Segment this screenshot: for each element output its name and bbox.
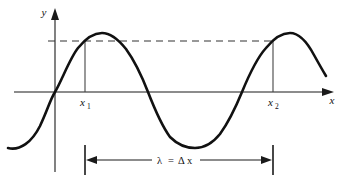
x1-label: x 1 [79,96,91,111]
wavelength-lambda: λ [157,155,163,166]
dimension-arrow-left-icon [86,156,97,164]
x-axis [14,88,334,96]
x1-label-subscript: 1 [87,102,91,111]
wavelength-label: λ = Δ x [157,155,193,166]
dimension-arrow-right-icon [261,156,272,164]
wavelength-variable: x [187,155,193,166]
y-axis-label: y [41,6,47,18]
wavelength-equals: = [168,155,174,166]
x2-label: x 2 [267,96,279,111]
x2-label-subscript: 2 [275,102,279,111]
x2-label-symbol: x [267,96,273,108]
wave-curve [8,33,326,149]
x-axis-label: x [329,94,335,106]
x1-label-symbol: x [79,96,85,108]
y-axis-arrow-icon [51,8,59,20]
wavelength-delta: Δ [178,155,185,166]
wavelength-diagram: y x x 1 x 2 λ = Δ x [0,0,346,182]
